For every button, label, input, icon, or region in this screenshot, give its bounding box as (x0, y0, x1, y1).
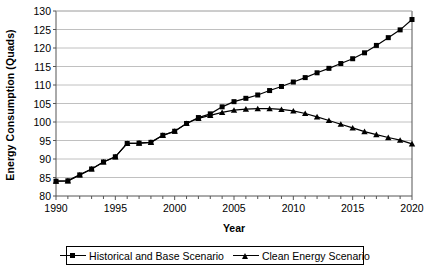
series-1 (53, 106, 415, 184)
x-tick-label: 2010 (273, 203, 313, 214)
y-tick-label: 100 (19, 117, 51, 127)
x-tick-label: 2020 (392, 203, 426, 214)
y-tick-label: 125 (19, 25, 51, 35)
square-marker-icon (60, 251, 86, 261)
y-tick-label: 85 (19, 173, 51, 183)
energy-consumption-line-chart: Energy Consumption (Quads) 8085909510010… (0, 0, 426, 272)
y-axis-title-container: Energy Consumption (Quads) (0, 0, 20, 210)
y-tick-label: 110 (19, 80, 51, 90)
legend-label-1: Clean Energy Scenario (262, 250, 370, 262)
legend-label-0: Historical and Base Scenario (89, 250, 224, 262)
y-axis-title: Energy Consumption (Quads) (4, 29, 16, 180)
y-tick-label: 80 (19, 191, 51, 201)
x-tick-label: 2015 (333, 203, 373, 214)
x-tick-marks (56, 196, 412, 200)
y-tick-label: 120 (19, 43, 51, 53)
y-tick-label: 95 (19, 136, 51, 146)
x-tick-label: 2000 (155, 203, 195, 214)
x-tick-label: 1990 (36, 203, 76, 214)
gridlines (56, 11, 412, 178)
x-tick-label: 2005 (214, 203, 254, 214)
legend-item-historical-and-base-scenario: Historical and Base Scenario (60, 250, 224, 262)
y-tick-label: 130 (19, 6, 51, 16)
y-tick-label: 115 (19, 62, 51, 72)
x-axis-title: Year (56, 222, 412, 234)
x-tick-label: 1995 (95, 203, 135, 214)
legend-item-clean-energy-scenario: Clean Energy Scenario (233, 250, 370, 262)
triangle-marker-icon (233, 251, 259, 261)
chart-legend: Historical and Base Scenario Clean Energ… (66, 246, 364, 265)
y-tick-label: 105 (19, 99, 51, 109)
y-tick-label: 90 (19, 154, 51, 164)
